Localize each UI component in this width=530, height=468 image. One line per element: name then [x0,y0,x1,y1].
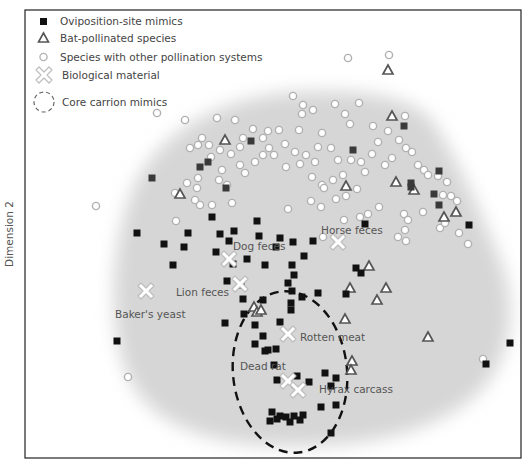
circle-marker-icon [424,171,431,178]
circle-marker-icon [265,144,272,151]
circle-marker-icon [353,185,360,192]
circle-marker-icon [228,199,235,206]
square-marker-icon [170,262,177,269]
circle-marker-icon [218,166,225,173]
circle-marker-icon [453,197,460,204]
circle-marker-icon [213,114,220,121]
circle-marker-icon [284,205,291,212]
circle-marker-icon [395,136,402,143]
circle-marker-icon [375,203,382,210]
circle-marker-icon [339,171,346,178]
square-marker-icon [483,361,490,368]
circle-marker-icon [346,120,353,127]
circle-marker-icon [364,210,371,217]
circle-marker-icon [124,373,131,380]
circle-marker-icon [259,151,266,158]
circle-marker-icon [194,174,201,181]
square-marker-icon [222,320,229,327]
circle-marker-icon [344,54,351,61]
circle-marker-icon [289,92,296,99]
circle-marker-icon [369,122,376,129]
circle-marker-icon [309,106,316,113]
circle-marker-icon [368,150,375,157]
square-marker-icon [267,418,274,425]
square-marker-icon [254,218,261,225]
circle-marker-icon [291,148,298,155]
square-marker-icon [114,338,121,345]
circle-marker-icon [318,129,325,136]
square-marker-icon [209,214,216,221]
circle-marker-icon [401,226,408,233]
circle-marker-icon [402,237,409,244]
circle-marker-icon [153,109,160,116]
square-marker-icon [185,230,192,237]
circle-marker-icon [296,160,303,167]
circle-marker-icon [302,151,309,158]
square-marker-icon [231,228,238,235]
circle-marker-icon [183,179,190,186]
square-marker-icon [260,333,267,340]
annotation-label: Hyrax carcass [319,383,393,395]
legend-item-other: Species with other pollination systems [40,51,263,63]
square-marker-icon [507,340,514,347]
circle-marker-icon [227,150,234,157]
circle-marker-icon [172,217,179,224]
circle-marker-icon [361,168,368,175]
square-marker-icon [408,184,415,191]
circle-marker-icon [193,184,200,191]
circle-marker-icon [191,196,198,203]
circle-marker-icon [404,216,411,223]
square-marker-icon [161,241,168,248]
square-marker-icon [244,256,251,263]
circle-marker-icon [357,158,364,165]
circle-marker-icon [334,156,341,163]
square-marker-icon [358,270,365,277]
circle-marker-icon [317,203,324,210]
square-marker-icon [291,272,298,279]
square-marker-icon [289,262,296,269]
circle-marker-icon [241,169,248,176]
square-marker-icon [149,175,156,182]
circle-marker-icon [239,134,246,141]
circle-marker-icon [92,202,99,209]
circle-marker-icon [320,184,327,191]
square-marker-icon [297,417,304,424]
square-marker-icon [213,249,220,256]
circle-marker-icon [401,112,408,119]
square-marker-icon [306,379,313,386]
circle-marker-icon [295,126,302,133]
y-axis-label: Dimension 2 [3,201,15,267]
legend-label: Bat-pollinated species [60,32,176,44]
square-marker-icon [256,233,263,240]
square-marker-icon [287,419,294,426]
legend-item-biological: Biological material [36,67,160,83]
square-marker-icon [310,238,317,245]
legend: Oviposition-site mimics Bat-pollinated s… [34,15,262,112]
circle-marker-icon [381,161,388,168]
square-marker-icon [289,288,296,295]
shaded-region [114,91,510,446]
square-marker-icon [262,348,269,355]
circle-marker-icon [236,161,243,168]
square-marker-icon [322,370,329,377]
cross-marker-icon [36,67,52,83]
square-marker-icon [241,311,248,318]
square-marker-icon [226,238,233,245]
circle-marker-icon [264,127,271,134]
square-marker-icon [328,430,335,437]
annotation-label: Dog feces [233,240,285,252]
square-marker-icon [240,296,247,303]
legend-label: Oviposition-site mimics [60,15,183,27]
circle-marker-icon [356,213,363,220]
circle-marker-icon [340,216,347,223]
annotation-label: Dead rat [240,360,286,372]
square-marker-icon [205,159,212,166]
circle-marker-icon [307,197,314,204]
square-marker-icon [252,322,259,329]
circle-marker-icon [347,156,354,163]
circle-marker-icon [374,138,381,145]
circle-marker-icon [408,148,415,155]
square-marker-icon [269,409,276,416]
square-marker-icon [40,18,47,25]
square-marker-icon [299,294,306,301]
